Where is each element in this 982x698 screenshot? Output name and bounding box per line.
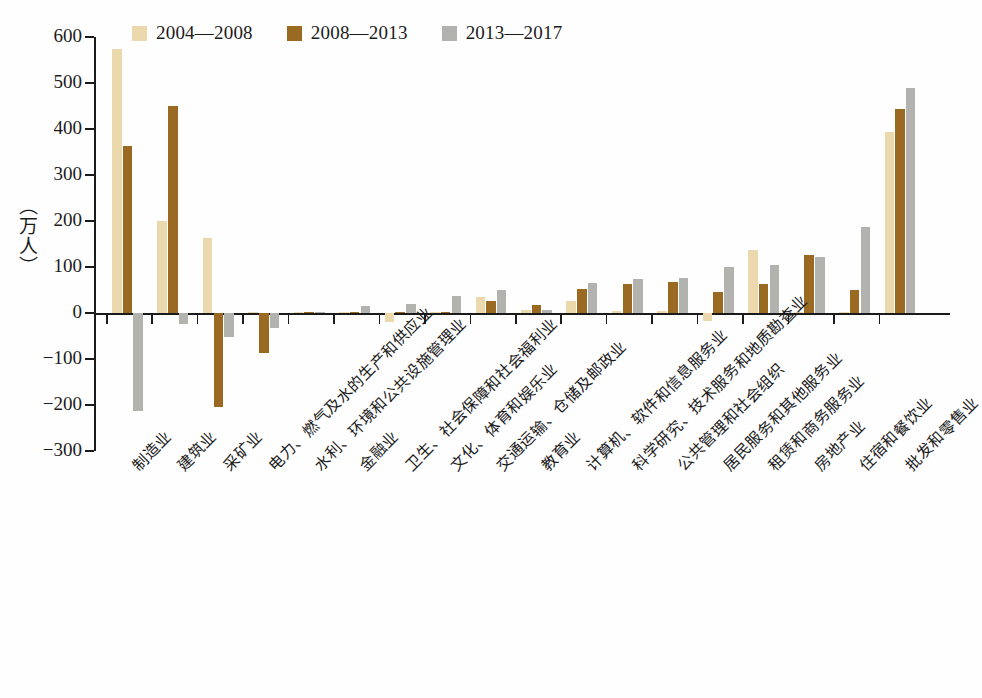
bar[interactable]	[315, 312, 325, 313]
bar[interactable]	[885, 132, 895, 313]
bar[interactable]	[577, 289, 587, 313]
bar[interactable]	[748, 250, 758, 313]
x-axis-tick	[288, 315, 290, 324]
bar[interactable]	[532, 305, 542, 313]
bar[interactable]	[361, 306, 371, 313]
x-axis-tick	[470, 315, 472, 324]
bar-group	[612, 37, 643, 451]
x-axis-tick	[151, 315, 153, 324]
y-axis-tick-label: 300	[20, 163, 82, 185]
bar[interactable]	[815, 257, 825, 313]
bar[interactable]	[385, 313, 395, 322]
bar[interactable]	[497, 290, 507, 313]
bar[interactable]	[759, 284, 769, 313]
bar[interactable]	[157, 221, 167, 313]
y-axis-tick	[85, 128, 94, 130]
y-axis-tick-label: 200	[20, 209, 82, 231]
y-axis-tick-label: 500	[20, 71, 82, 93]
bar[interactable]	[703, 313, 713, 321]
bar[interactable]	[203, 238, 213, 313]
x-axis-tick	[242, 315, 244, 324]
bar[interactable]	[839, 312, 849, 313]
bar[interactable]	[521, 310, 531, 313]
bar[interactable]	[395, 312, 405, 313]
x-axis-tick	[879, 315, 881, 324]
bar[interactable]	[633, 279, 643, 313]
bar[interactable]	[179, 313, 189, 324]
y-axis-tick-label: 400	[20, 117, 82, 139]
bar[interactable]	[657, 311, 667, 313]
x-axis-tick	[742, 315, 744, 324]
y-axis-tick	[85, 266, 94, 268]
bar[interactable]	[679, 278, 689, 313]
bar-group	[157, 37, 188, 451]
y-axis-tick-label: 600	[20, 25, 82, 47]
bar[interactable]	[441, 312, 451, 313]
bar[interactable]	[304, 312, 314, 313]
bar[interactable]	[133, 313, 143, 411]
bar[interactable]	[112, 49, 122, 313]
x-axis-tick	[651, 315, 653, 324]
x-axis-tick	[606, 315, 608, 324]
bar[interactable]	[123, 146, 133, 313]
x-axis-tick	[560, 315, 562, 324]
bar[interactable]	[612, 311, 622, 313]
y-axis-tick-label: 0	[20, 301, 82, 323]
bar[interactable]	[168, 106, 178, 313]
y-axis-line	[94, 37, 96, 451]
bar-group	[248, 37, 279, 451]
y-axis-tick-label: −300	[20, 439, 82, 461]
y-axis-tick-label: 100	[20, 255, 82, 277]
bar-group	[430, 37, 461, 451]
bar[interactable]	[259, 313, 269, 353]
bar-group	[294, 37, 325, 451]
bar[interactable]	[248, 312, 258, 313]
bar[interactable]	[850, 290, 860, 313]
y-axis-tick	[85, 358, 94, 360]
bar[interactable]	[350, 312, 360, 313]
bar-group	[112, 37, 143, 451]
bar[interactable]	[294, 312, 304, 313]
bar[interactable]	[895, 109, 905, 313]
y-axis-tick	[85, 404, 94, 406]
y-axis-tick	[85, 82, 94, 84]
bar[interactable]	[270, 313, 280, 328]
x-axis-tick	[106, 315, 108, 324]
bar[interactable]	[214, 313, 224, 407]
y-axis-tick	[85, 174, 94, 176]
x-axis-tick	[197, 315, 199, 324]
bar-group	[885, 37, 916, 451]
x-axis-tick	[697, 315, 699, 324]
bar[interactable]	[906, 88, 916, 313]
y-axis-tick-label: −100	[20, 347, 82, 369]
bar[interactable]	[452, 296, 462, 313]
bar[interactable]	[588, 283, 598, 313]
bar[interactable]	[713, 292, 723, 313]
bar[interactable]	[486, 301, 496, 313]
bar[interactable]	[724, 267, 734, 313]
bar[interactable]	[224, 313, 234, 337]
x-axis-tick	[333, 315, 335, 324]
bar[interactable]	[668, 282, 678, 313]
bar[interactable]	[339, 312, 349, 313]
y-axis-tick	[85, 220, 94, 222]
bar[interactable]	[861, 227, 871, 313]
y-axis-tick	[85, 36, 94, 38]
y-axis-tick	[85, 312, 94, 314]
bar-group	[203, 37, 234, 451]
y-axis-tick	[85, 450, 94, 452]
x-axis-tick	[379, 315, 381, 324]
bar[interactable]	[623, 284, 633, 313]
bar[interactable]	[566, 301, 576, 313]
x-axis-tick	[833, 315, 835, 324]
x-axis-tick	[515, 315, 517, 324]
bar[interactable]	[476, 297, 486, 313]
y-axis-tick-label: −200	[20, 393, 82, 415]
